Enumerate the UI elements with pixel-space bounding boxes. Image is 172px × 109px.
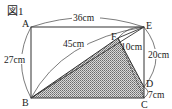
point-f-label: F: [111, 31, 117, 42]
length-ef: 10cm: [121, 42, 143, 52]
length-be: 45cm: [63, 39, 85, 49]
point-c-label: C: [141, 99, 148, 109]
length-ae: 36cm: [73, 13, 95, 23]
point-e-label: E: [146, 20, 152, 31]
figure-title: 図1: [7, 5, 24, 17]
point-b-label: B: [22, 97, 29, 108]
point-d-label: D: [146, 78, 153, 89]
length-ab: 27cm: [4, 55, 26, 65]
length-ed: 20cm: [148, 50, 170, 60]
geometry-figure: 図1 A E B C F D 36cm 27cm 45cm 10cm 20cm …: [0, 0, 172, 109]
point-a-label: A: [22, 18, 30, 29]
length-dc: 7cm: [148, 90, 165, 100]
